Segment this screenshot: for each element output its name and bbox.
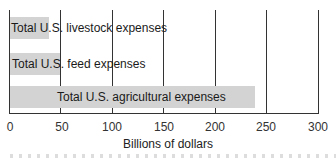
x-tick-300: 300 — [308, 120, 328, 134]
x-axis-line — [9, 113, 319, 114]
x-tick-150: 150 — [154, 120, 174, 134]
x-tick-200: 200 — [205, 120, 225, 134]
gridline-300 — [318, 10, 319, 114]
cropped-caption-fragment — [10, 154, 336, 158]
bar-chart: Total U.S. livestock expenses Total U.S.… — [0, 0, 336, 158]
bar-label-feed: Total U.S. feed expenses — [12, 53, 145, 75]
x-tick-100: 100 — [102, 120, 122, 134]
x-axis-label: Billions of dollars — [0, 137, 336, 151]
x-tick-250: 250 — [256, 120, 276, 134]
gridline-250 — [266, 10, 267, 114]
x-tick-50: 50 — [55, 120, 68, 134]
x-tick-0: 0 — [7, 120, 14, 134]
bar-label-livestock: Total U.S. livestock expenses — [11, 17, 167, 39]
bar-label-agricultural: Total U.S. agricultural expenses — [57, 86, 226, 108]
